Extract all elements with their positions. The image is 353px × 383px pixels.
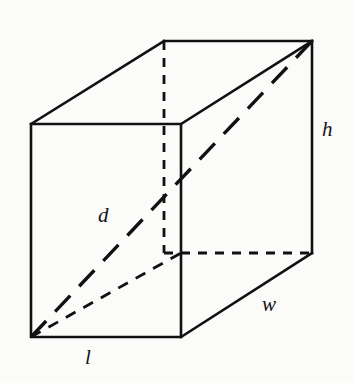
dimension-label-length: l [85, 347, 91, 368]
dimension-label-height: h [322, 119, 333, 140]
dimension-label-diagonal: d [98, 205, 109, 226]
prism-svg-canvas [0, 0, 353, 383]
prism-diagram: d h w l [0, 0, 353, 383]
dimension-label-width: w [262, 294, 276, 315]
